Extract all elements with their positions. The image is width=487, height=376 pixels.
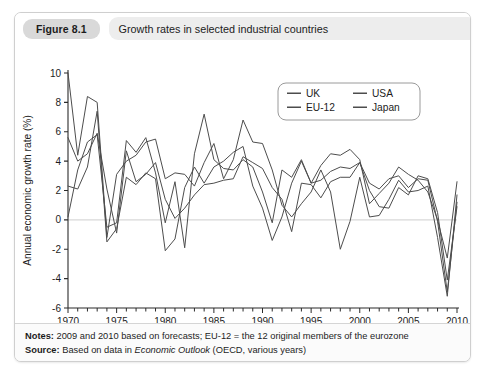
series-line-uk: [68, 111, 457, 292]
y-axis-tick-label: -2: [52, 244, 61, 255]
y-axis-label: Annual economic growth rate (%): [22, 115, 33, 266]
chart-legend: UKUSAEU-12Japan: [278, 83, 420, 120]
y-axis-tick-label: 10: [50, 68, 62, 79]
footer-source-label: Source:: [25, 345, 60, 355]
legend-label-eu-12: EU-12: [306, 102, 335, 113]
y-axis-tick-label: -4: [52, 273, 61, 284]
series-line-usa: [68, 114, 457, 258]
figure-header: Figure 8.1 Growth rates in selected indu…: [15, 13, 470, 45]
legend-label-japan: Japan: [372, 102, 400, 113]
legend-label-uk: UK: [306, 88, 320, 99]
figure-card: Figure 8.1 Growth rates in selected indu…: [14, 12, 471, 362]
footer-source-italic: Economic Outlook: [135, 345, 210, 355]
figure-title: Growth rates in selected industrial coun…: [109, 17, 470, 40]
footer-notes-label: Notes:: [25, 331, 54, 341]
figure-number-badge: Figure 8.1: [23, 19, 100, 39]
y-axis-tick-label: 8: [55, 97, 61, 108]
footer-source-pre: Based on data in: [60, 345, 135, 355]
series-line-eu-12: [68, 133, 457, 280]
footer-source: Source: Based on data in Economic Outloo…: [25, 343, 460, 357]
footer-notes-text: 2009 and 2010 based on forecasts; EU-12 …: [54, 331, 409, 341]
y-axis: -6-4-20246810: [50, 68, 68, 314]
y-axis-tick-label: -6: [52, 303, 61, 314]
y-axis-tick-label: 4: [55, 156, 61, 167]
line-chart: -6-4-20246810 19701975198019851990199520…: [15, 44, 471, 329]
y-axis-tick-label: 0: [55, 214, 61, 225]
y-axis-title: Annual economic growth rate (%): [22, 115, 33, 266]
y-axis-tick-label: 6: [55, 126, 61, 137]
figure-footer: Notes: 2009 and 2010 based on forecasts;…: [15, 323, 470, 361]
chart-plot-region: -6-4-20246810 19701975198019851990199520…: [15, 44, 471, 329]
legend-label-usa: USA: [372, 88, 393, 99]
footer-notes: Notes: 2009 and 2010 based on forecasts;…: [25, 329, 460, 343]
y-axis-tick-label: 2: [55, 185, 61, 196]
footer-source-post: (OECD, various years): [210, 345, 306, 355]
